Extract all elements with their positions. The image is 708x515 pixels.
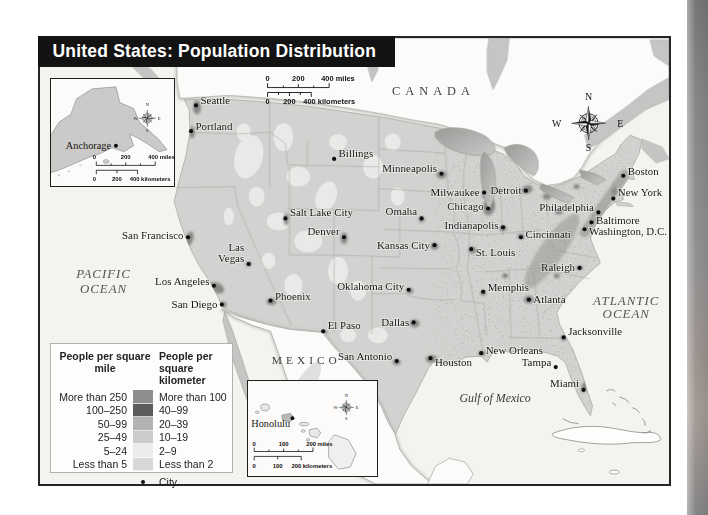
city-dot-houston [428, 356, 432, 360]
city-label-new-orleans: New Orleans [486, 344, 543, 356]
page-edge-shading [687, 0, 708, 515]
city-dot-indianapolis [501, 225, 505, 229]
city-label-seattle: Seattle [200, 94, 230, 106]
anchorage-dot [114, 144, 118, 148]
legend-row: 100–25040–99 [57, 404, 226, 418]
canada-label: CANADA [392, 84, 475, 98]
city-label-new-york: New York [618, 186, 663, 198]
legend-mile-value: 100–250 [57, 404, 133, 416]
city-label-oklahoma-city: Oklahoma City [337, 280, 405, 292]
scale-km-200: 200 [283, 97, 295, 106]
city-label-boston: Boston [628, 165, 659, 177]
city-dot-jacksonville [562, 335, 566, 339]
city-label-phoenix: Phoenix [275, 290, 311, 302]
city-dot-new-orleans [479, 351, 483, 355]
compass-south-label: S [586, 142, 592, 153]
city-dot-atlanta [527, 298, 531, 302]
city-dot-omaha [419, 216, 423, 220]
city-dot-san-diego [220, 303, 224, 307]
city-dot-denver [342, 235, 346, 239]
legend-color-swatch [133, 417, 153, 431]
hawaii-scale-km-200: 200 kilometers [291, 463, 332, 469]
city-label-tampa: Tampa [522, 356, 552, 368]
legend-city-row: City [57, 473, 226, 491]
city-dot-seattle [194, 103, 198, 107]
legend-mile-header: People per square mile [57, 350, 153, 390]
legend-color-swatch [133, 458, 153, 472]
city-dot-billings [332, 157, 336, 161]
city-dot-el-paso [321, 329, 325, 333]
city-label-detroit: Detroit [490, 184, 521, 196]
city-dot-baltimore [589, 220, 593, 224]
scale-km-0: 0 [265, 97, 269, 106]
city-dot-los-angeles [212, 284, 216, 288]
mexico-label: MEXICO [272, 354, 341, 366]
map-title: United States: Population Distribution [53, 41, 377, 62]
gulf-of-mexico-label: Gulf of Mexico [459, 391, 530, 405]
legend-km-value: 20–39 [153, 418, 228, 430]
city-label-cincinnati: Cincinnati [525, 228, 570, 240]
city-label-san-diego: San Diego [172, 298, 218, 310]
legend-color-swatch [133, 431, 153, 445]
city-dot-dallas [412, 320, 416, 324]
hawaii-compass-e: E [356, 405, 359, 410]
legend-city-label: City [153, 476, 228, 488]
city-label-minneapolis: Minneapolis [382, 162, 437, 174]
anchorage-label: Anchorage [66, 140, 112, 151]
city-label-dallas: Dallas [381, 316, 409, 328]
legend-km-header: People per square kilometer [153, 350, 228, 390]
page: CANADA MEXICO PACIFIC OCEAN ATLANTIC OCE… [0, 0, 708, 515]
city-label-omaha: Omaha [386, 205, 418, 217]
map-title-bar: United States: Population Distribution [38, 36, 395, 67]
pacific-ocean-label-line2: OCEAN [80, 282, 128, 296]
city-dot-oklahoma-city [407, 288, 411, 292]
scale-miles-200: 200 [292, 74, 304, 83]
legend-color-swatch [133, 390, 153, 404]
city-label-el-paso: El Paso [328, 319, 362, 331]
compass-north-label: N [585, 91, 592, 102]
city-dot-san-francisco [186, 235, 190, 239]
alaska-compass-w: W [133, 116, 138, 121]
compass-east-label: E [617, 118, 623, 129]
scale-km-400: 400 kilometers [303, 97, 355, 106]
city-dot-milwaukee [482, 191, 486, 195]
honolulu-label: Honolulu [251, 418, 290, 429]
city-dot-new-york [611, 196, 615, 200]
alaska-scale-km-200: 200 [112, 176, 123, 182]
legend: People per square mile People per square… [50, 343, 233, 473]
city-dot-washington-d-c [582, 227, 586, 231]
alaska-scale-mi-400: 400 miles [148, 154, 174, 160]
scale-miles-0: 0 [265, 74, 269, 83]
compass-west-label: W [552, 118, 562, 129]
alaska-scale-km-400: 400 kilometers [130, 176, 172, 182]
city-label-kansas-city: Kansas City [377, 239, 431, 251]
legend-row: 5–242–9 [57, 444, 226, 458]
city-label-philadelphia: Philadelphia [539, 201, 594, 213]
city-dot-san-antonio [395, 359, 399, 363]
city-label-jacksonville: Jacksonville [568, 325, 622, 337]
alaska-compass-e: E [158, 116, 161, 121]
city-dot-phoenix [268, 299, 272, 303]
city-label-memphis: Memphis [488, 281, 529, 293]
honolulu-dot [291, 416, 295, 420]
legend-color-swatch [133, 444, 153, 458]
city-dot-cincinnati [519, 235, 523, 239]
hawaii-inset-map: Honolulu N E S W 0 100 200 miles 0 100 2… [247, 380, 378, 477]
city-dot-minneapolis [439, 172, 443, 176]
legend-mile-value: Less than 5 [57, 458, 133, 470]
atlantic-ocean-label-line1: ATLANTIC [592, 294, 659, 308]
alaska-scale-mi-200: 200 [121, 154, 132, 160]
map-frame: CANADA MEXICO PACIFIC OCEAN ATLANTIC OCE… [38, 36, 671, 486]
city-dot-memphis [481, 290, 485, 294]
city-label-raleigh: Raleigh [541, 261, 576, 273]
legend-row: 25–4910–19 [57, 431, 226, 445]
legend-row: Less than 5Less than 2 [57, 458, 226, 472]
legend-row: 50–9920–39 [57, 417, 226, 431]
pacific-ocean-label-line1: PACIFIC [75, 267, 131, 281]
legend-km-value: 2–9 [153, 445, 228, 457]
city-dot-miami [581, 388, 585, 392]
alaska-inset-map: Anchorage N E S W 0 200 400 miles 0 200 … [50, 78, 175, 187]
city-dot-salt-lake-city [283, 216, 287, 220]
atlantic-ocean-label-line2: OCEAN [603, 307, 651, 321]
legend-rows: More than 250More than 100100–25040–9950… [57, 390, 226, 471]
